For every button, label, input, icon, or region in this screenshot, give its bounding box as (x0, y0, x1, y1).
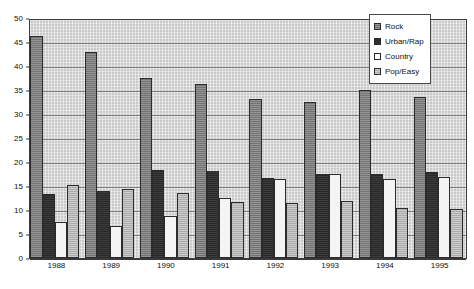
legend-item-urban-rap[interactable]: Urban/Rap (374, 34, 424, 49)
bar-chart: 05101520253035404550 1988198919901991199… (0, 0, 474, 289)
y-tick-label-15: 15 (14, 183, 23, 191)
bar-pop-easy-1994 (396, 208, 408, 258)
bar-pop-easy-1995 (450, 209, 462, 258)
x-axis: 19881989199019911992199319941995 (29, 262, 467, 278)
bar-urban-rap-1990 (152, 170, 164, 258)
x-tick-label-1991: 1991 (212, 262, 230, 270)
chart-legend: RockUrban/RapCountryPop/Easy (369, 14, 431, 84)
bar-rock-1995 (414, 97, 426, 258)
y-tick-mark-0 (26, 259, 29, 260)
bar-rock-1988 (30, 36, 42, 258)
bar-urban-rap-1988 (43, 194, 55, 258)
bar-pop-easy-1989 (122, 189, 134, 258)
y-tick-label-35: 35 (14, 87, 23, 95)
bar-rock-1990 (140, 78, 152, 258)
y-tick-label-50: 50 (14, 15, 23, 23)
bar-urban-rap-1992 (262, 178, 274, 258)
bar-country-1994 (383, 179, 395, 258)
bar-country-1988 (55, 222, 67, 258)
bar-rock-1992 (249, 99, 261, 258)
bar-country-1992 (274, 179, 286, 258)
y-tick-label-45: 45 (14, 39, 23, 47)
x-tick-label-1992: 1992 (266, 262, 284, 270)
bar-country-1990 (164, 216, 176, 258)
y-tick-mark-50 (26, 19, 29, 20)
x-tick-label-1995: 1995 (431, 262, 449, 270)
bar-pop-easy-1992 (286, 203, 298, 258)
bar-rock-1991 (195, 84, 207, 258)
bar-pop-easy-1988 (67, 185, 79, 258)
bar-urban-rap-1995 (426, 172, 438, 258)
legend-swatch-pop-easy-icon (374, 68, 381, 75)
bar-group-1990 (140, 20, 189, 258)
y-tick-label-25: 25 (14, 135, 23, 143)
bar-group-1991 (195, 20, 244, 258)
y-tick-mark-40 (26, 67, 29, 68)
legend-item-pop-easy[interactable]: Pop/Easy (374, 64, 424, 79)
x-tick-label-1990: 1990 (157, 262, 175, 270)
legend-label-urban-rap: Urban/Rap (385, 38, 424, 46)
bar-urban-rap-1991 (207, 171, 219, 258)
x-tick-label-1989: 1989 (102, 262, 120, 270)
legend-label-rock: Rock (385, 23, 403, 31)
x-tick-label-1994: 1994 (376, 262, 394, 270)
y-tick-label-30: 30 (14, 111, 23, 119)
y-tick-mark-25 (26, 139, 29, 140)
bar-urban-rap-1993 (316, 174, 328, 258)
y-tick-label-5: 5 (19, 231, 23, 239)
y-tick-mark-20 (26, 163, 29, 164)
y-tick-label-0: 0 (19, 255, 23, 263)
bar-group-1993 (304, 20, 353, 258)
bar-country-1989 (110, 226, 122, 258)
legend-swatch-country-icon (374, 53, 381, 60)
bar-country-1993 (329, 174, 341, 258)
legend-item-country[interactable]: Country (374, 49, 424, 64)
x-tick-label-1988: 1988 (47, 262, 65, 270)
bar-rock-1989 (85, 52, 97, 258)
x-tick-label-1993: 1993 (321, 262, 339, 270)
y-tick-mark-45 (26, 43, 29, 44)
bar-pop-easy-1993 (341, 201, 353, 258)
bar-group-1989 (85, 20, 134, 258)
y-tick-mark-15 (26, 187, 29, 188)
y-axis: 05101520253035404550 (0, 19, 26, 259)
bar-group-1992 (249, 20, 298, 258)
legend-label-pop-easy: Pop/Easy (385, 68, 419, 76)
bar-rock-1993 (304, 102, 316, 258)
y-tick-mark-10 (26, 211, 29, 212)
y-tick-label-40: 40 (14, 63, 23, 71)
gridline-0 (30, 259, 466, 260)
y-tick-label-20: 20 (14, 159, 23, 167)
y-tick-mark-35 (26, 91, 29, 92)
bar-group-1988 (30, 20, 79, 258)
bar-country-1991 (219, 198, 231, 258)
bar-rock-1994 (359, 90, 371, 258)
legend-swatch-urban-rap-icon (374, 38, 381, 45)
legend-label-country: Country (385, 53, 413, 61)
y-tick-label-10: 10 (14, 207, 23, 215)
bar-country-1995 (438, 177, 450, 258)
legend-item-rock[interactable]: Rock (374, 19, 424, 34)
y-tick-mark-30 (26, 115, 29, 116)
bar-pop-easy-1991 (231, 202, 243, 258)
legend-swatch-rock-icon (374, 23, 381, 30)
bar-urban-rap-1994 (371, 174, 383, 258)
bar-urban-rap-1989 (97, 191, 109, 258)
bar-pop-easy-1990 (177, 193, 189, 258)
y-tick-mark-5 (26, 235, 29, 236)
